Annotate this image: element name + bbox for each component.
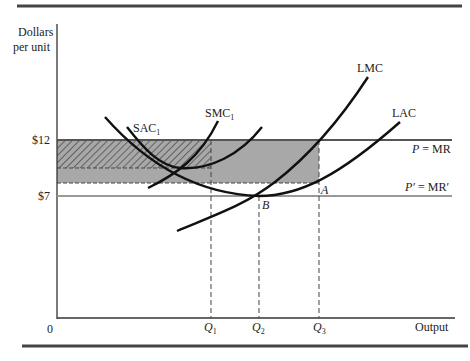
q1-label: Q1 <box>204 321 217 336</box>
point-a-label: A <box>321 184 328 196</box>
y-tick-7: $7 <box>38 190 50 202</box>
lmc-label: LMC <box>357 62 383 74</box>
lac-label: LAC <box>392 107 416 119</box>
sac1-label: SAC1 <box>133 122 160 137</box>
y-axis-label-line2: per unit <box>13 41 50 53</box>
q2-label: Q2 <box>252 321 265 336</box>
smc1-label: SMC1 <box>205 107 234 122</box>
p-prime-mr-prime-label: P′ = MR′ <box>405 181 449 193</box>
y-tick-12: $12 <box>32 134 50 146</box>
origin-label: 0 <box>47 323 53 335</box>
chart-canvas <box>0 0 470 361</box>
q3-label: Q3 <box>313 321 326 336</box>
x-axis-label: Output <box>415 321 448 333</box>
y-axis-label-line1: Dollars <box>18 26 53 38</box>
point-b-label: B <box>262 199 269 211</box>
p-mr-label: P = MR <box>412 143 451 155</box>
